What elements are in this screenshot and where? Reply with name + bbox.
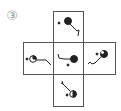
top-face-symbol-icon: [58, 18, 79, 37]
center-face-symbol-icon: [58, 54, 78, 66]
right-face-symbol-icon: [88, 51, 108, 65]
bottom-face-symbol-icon: [61, 81, 76, 97]
left-face-symbol-icon: [26, 56, 51, 65]
net-symbols: [0, 0, 121, 111]
